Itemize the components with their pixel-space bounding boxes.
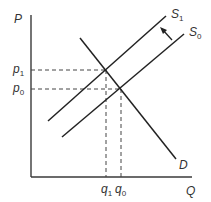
y-axis-label: P	[14, 12, 22, 26]
x-axis-label: Q	[186, 184, 195, 198]
p0-label: p0	[12, 81, 25, 97]
demand-curve	[80, 38, 176, 159]
supply-curve-s0	[62, 34, 184, 137]
q1-label: q1	[101, 182, 113, 198]
d-label: D	[179, 158, 188, 172]
supply-curve-s1	[48, 16, 166, 121]
q0-label: q0	[115, 182, 127, 198]
s1-label: S1	[171, 7, 184, 23]
s0-label: S0	[189, 25, 202, 41]
p1-label: p1	[12, 62, 25, 78]
supply-demand-diagram: P Q p1 p0 q1 q0 S1 S0 D	[0, 0, 211, 202]
